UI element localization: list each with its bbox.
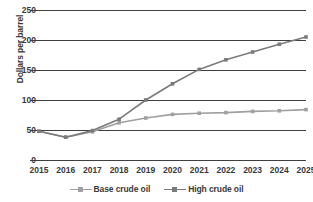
- legend-item-base[interactable]: Base crude oil: [70, 184, 151, 194]
- legend-label: High crude oil: [188, 184, 243, 194]
- crude-oil-price-chart: Dollars per barrel 050100150200250 20152…: [0, 0, 313, 202]
- x-tick-label: 2025: [288, 166, 313, 175]
- x-axis-tick-labels: 2015201620172018201920202021202220232024…: [0, 0, 313, 202]
- legend-item-high[interactable]: High crude oil: [164, 184, 243, 194]
- chart-legend: Base crude oilHigh crude oil: [0, 184, 313, 194]
- legend-label: Base crude oil: [94, 184, 151, 194]
- legend-swatch-icon: [70, 185, 92, 194]
- legend-swatch-icon: [164, 185, 186, 194]
